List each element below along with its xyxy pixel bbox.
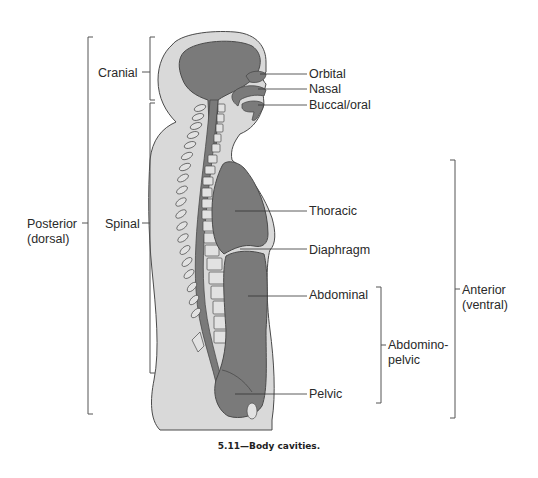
label-spinal: Spinal: [105, 217, 140, 231]
label-pelvic: Pelvic: [309, 387, 342, 401]
body-cavities-diagram: [0, 0, 538, 478]
figure-caption: 5.11—Body cavities.: [0, 441, 538, 451]
label-abdominopelvic-2: pelvic: [388, 353, 420, 367]
label-anterior: Anterior: [462, 283, 506, 297]
label-ventral: (ventral): [462, 298, 508, 312]
label-thoracic: Thoracic: [309, 204, 357, 218]
label-abdominopelvic-1: Abdomino-: [388, 338, 448, 352]
thoracic-cavity: [212, 162, 268, 254]
label-abdominal: Abdominal: [309, 288, 368, 302]
label-cranial: Cranial: [98, 66, 138, 80]
label-buccal-oral: Buccal/oral: [309, 98, 371, 112]
right-brackets: [376, 160, 460, 418]
label-nasal: Nasal: [309, 82, 341, 96]
label-dorsal: (dorsal): [27, 232, 69, 246]
label-orbital: Orbital: [309, 67, 346, 81]
label-posterior: Posterior: [27, 217, 77, 231]
label-diaphragm: Diaphragm: [309, 243, 370, 257]
pubic-bone: [247, 403, 257, 419]
